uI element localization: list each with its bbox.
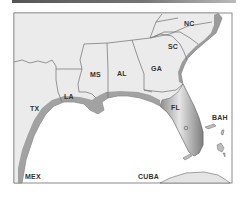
- label-mex: MEX: [25, 173, 41, 180]
- label-al: AL: [117, 70, 127, 77]
- label-tx: TX: [30, 105, 39, 112]
- label-bah: BAH: [212, 114, 228, 121]
- label-nc: NC: [184, 20, 195, 27]
- map-figure: [0, 0, 244, 198]
- label-ga: GA: [151, 65, 162, 72]
- label-fl: FL: [171, 104, 180, 111]
- label-la: LA: [64, 93, 74, 100]
- label-sc: SC: [168, 43, 178, 50]
- label-ms: MS: [90, 71, 101, 78]
- label-cuba: CUBA: [138, 173, 159, 180]
